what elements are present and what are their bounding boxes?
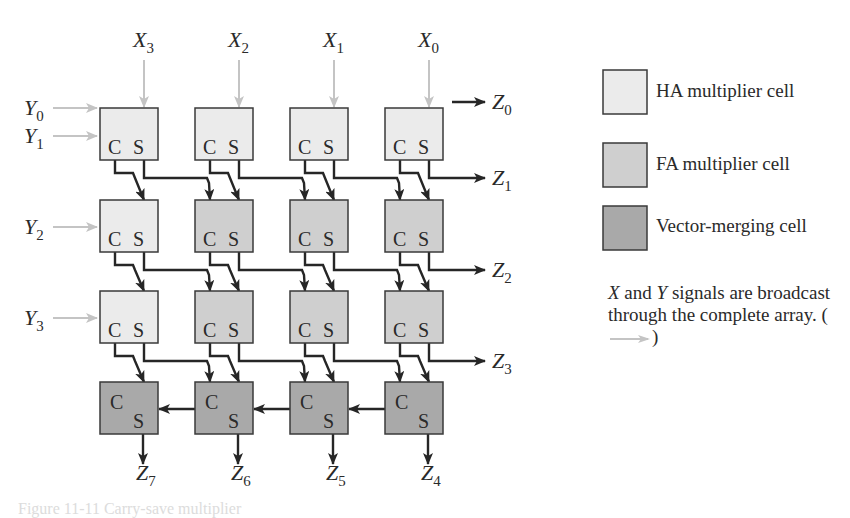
carry-wire bbox=[210, 160, 239, 200]
sum-label: S bbox=[418, 410, 429, 432]
cell-vm-r3c2 bbox=[290, 382, 348, 434]
sum-label: S bbox=[133, 136, 144, 158]
carry-label: C bbox=[203, 228, 216, 250]
sum-wire bbox=[144, 252, 210, 291]
cell-vm-r3c1 bbox=[195, 382, 253, 434]
output-label-z7: Z7 bbox=[136, 460, 156, 489]
output-wire bbox=[429, 160, 485, 178]
input-label-x2: X2 bbox=[227, 27, 249, 56]
carry-wire bbox=[115, 160, 144, 200]
carry-label: C bbox=[395, 391, 408, 413]
carry-label: C bbox=[393, 228, 406, 250]
carry-wire bbox=[305, 343, 334, 382]
output-label-z2: Z2 bbox=[492, 257, 512, 286]
output-label-z3: Z3 bbox=[492, 348, 512, 377]
legend-label-fa: FA multiplier cell bbox=[656, 153, 790, 175]
carry-wire bbox=[400, 160, 429, 200]
sum-label: S bbox=[133, 410, 144, 432]
input-label-y0: Y0 bbox=[24, 95, 44, 124]
output-wire bbox=[429, 252, 485, 270]
legend-label-ha: HA multiplier cell bbox=[656, 80, 794, 102]
legend-label-vm: Vector-merging cell bbox=[656, 215, 807, 237]
carry-label: C bbox=[298, 136, 311, 158]
output-label-z0: Z0 bbox=[492, 89, 512, 118]
sum-label: S bbox=[323, 319, 334, 341]
sum-wire bbox=[144, 160, 210, 200]
note-close: ) bbox=[652, 326, 658, 347]
output-label-z4: Z4 bbox=[421, 460, 441, 489]
sum-label: S bbox=[133, 319, 144, 341]
sum-wire bbox=[239, 252, 305, 291]
carry-label: C bbox=[203, 319, 216, 341]
carry-label: C bbox=[110, 391, 123, 413]
sum-wire bbox=[334, 343, 400, 382]
broadcast-note: X and Y signals are broadcast through th… bbox=[608, 282, 848, 348]
note-and: and bbox=[620, 282, 657, 303]
sum-label: S bbox=[228, 319, 239, 341]
carry-label: C bbox=[108, 136, 121, 158]
carry-wire bbox=[210, 252, 239, 291]
cell-vm-r3c0 bbox=[100, 382, 158, 434]
input-label-y3: Y3 bbox=[24, 305, 44, 334]
legend-swatch-vm bbox=[603, 206, 647, 250]
carry-label: C bbox=[298, 228, 311, 250]
carry-wire bbox=[400, 343, 429, 382]
carry-wire bbox=[305, 252, 334, 291]
sum-label: S bbox=[228, 136, 239, 158]
legend-swatch-ha bbox=[603, 70, 647, 114]
carry-label: C bbox=[108, 319, 121, 341]
sum-label: S bbox=[228, 228, 239, 250]
sum-label: S bbox=[228, 410, 239, 432]
input-label-x3: X3 bbox=[132, 27, 154, 56]
output-label-z5: Z5 bbox=[326, 460, 346, 489]
input-label-y2: Y2 bbox=[24, 214, 44, 243]
carry-label: C bbox=[108, 228, 121, 250]
broadcast-arrow-icon bbox=[608, 334, 652, 344]
output-wire bbox=[429, 343, 485, 361]
note-y: Y bbox=[657, 282, 668, 303]
sum-wire bbox=[239, 343, 305, 382]
input-label-y1: Y1 bbox=[24, 123, 44, 152]
carry-label: C bbox=[203, 136, 216, 158]
cell-vm-r3c3 bbox=[385, 382, 443, 434]
legend-swatches bbox=[603, 70, 647, 250]
carry-label: C bbox=[298, 319, 311, 341]
input-label-x1: X1 bbox=[322, 27, 344, 56]
carry-label: C bbox=[393, 319, 406, 341]
sum-wire bbox=[239, 160, 305, 200]
sum-wire bbox=[334, 160, 400, 200]
sum-label: S bbox=[323, 228, 334, 250]
carry-label: C bbox=[205, 391, 218, 413]
sum-wire bbox=[144, 343, 210, 382]
carry-wire bbox=[115, 252, 144, 291]
carry-label: C bbox=[300, 391, 313, 413]
sum-label: S bbox=[418, 319, 429, 341]
input-label-x0: X0 bbox=[417, 27, 439, 56]
figure-caption: Figure 11-11 Carry-save multiplier bbox=[18, 500, 241, 518]
sum-label: S bbox=[323, 136, 334, 158]
carry-label: C bbox=[393, 136, 406, 158]
carry-wire bbox=[400, 252, 429, 291]
note-x: X bbox=[608, 282, 620, 303]
carry-wire bbox=[305, 160, 334, 200]
output-label-z6: Z6 bbox=[231, 460, 251, 489]
sum-label: S bbox=[323, 410, 334, 432]
legend-swatch-fa bbox=[603, 143, 647, 187]
sum-wire bbox=[334, 252, 400, 291]
sum-label: S bbox=[418, 136, 429, 158]
carry-wire bbox=[115, 343, 144, 382]
sum-label: S bbox=[418, 228, 429, 250]
sum-label: S bbox=[133, 228, 144, 250]
output-label-z1: Z1 bbox=[492, 165, 512, 194]
carry-wire bbox=[210, 343, 239, 382]
